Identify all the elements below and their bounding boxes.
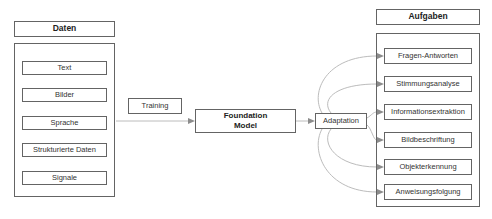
foundation-model-label-line1: Foundation xyxy=(224,111,268,120)
task-item-informationsextraktion: Informationsextraktion xyxy=(384,104,472,120)
task-item-objekterkennung: Objekterkennung xyxy=(384,159,472,175)
connector-adaptation-to-task-5 xyxy=(328,129,377,167)
connector-adaptation-to-task-6 xyxy=(318,129,377,192)
aufgaben-header: Aufgaben xyxy=(376,9,480,25)
arrowhead-into-adaptation-icon xyxy=(308,118,315,124)
foundation-model-label-line2: Model xyxy=(234,121,257,130)
data-item-strukturierte-daten: Strukturierte Daten xyxy=(22,143,107,157)
task-item-bildbeschriftung: Bildbeschriftung xyxy=(384,132,472,148)
data-item-bilder: Bilder xyxy=(22,88,107,102)
adaptation-box: Adaptation xyxy=(315,113,367,129)
task-item-fragen-antworten: Fragen-Antworten xyxy=(384,48,472,64)
foundation-model-box: FoundationModel xyxy=(195,109,296,133)
data-item-signale: Signale xyxy=(22,171,107,185)
training-box: Training xyxy=(128,98,182,114)
foundation-model-label: FoundationModel xyxy=(224,111,268,131)
data-item-text: Text xyxy=(22,61,107,75)
arrowhead-into-model-icon xyxy=(188,118,195,124)
task-item-anweisungsfolgung: Anweisungsfolgung xyxy=(384,184,472,200)
foundation-model-diagram: Daten Text Bilder Sprache Strukturierte … xyxy=(0,0,492,219)
data-item-sprache: Sprache xyxy=(22,116,107,130)
connector-adaptation-to-task-2 xyxy=(328,84,377,113)
daten-header: Daten xyxy=(14,21,115,37)
task-item-stimmungsanalyse: Stimmungsanalyse xyxy=(384,76,472,92)
